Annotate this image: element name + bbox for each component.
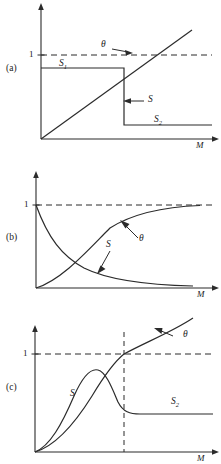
s2-label-c-sub: 2 (176, 401, 179, 408)
x-axis-label-c: M (197, 453, 205, 463)
y-tick-label-one-c: 1 (23, 348, 28, 358)
s2-label-a-sub: 2 (159, 119, 162, 126)
panel-c-plot (0, 304, 221, 464)
s1-label-a-sub: 1 (64, 63, 67, 70)
s-label-c: S (70, 388, 75, 398)
theta-label-a: θ (101, 39, 106, 49)
panel-c: (c) 1 M θ S S2 (0, 304, 221, 464)
s1-label-a: S1 (59, 58, 67, 70)
three-panel-figure: (a) 1 M θ S S1 S2 (0, 0, 221, 464)
theta-annotation-arrowhead (154, 328, 163, 334)
s2-label-a: S2 (154, 114, 162, 126)
panel-b: (b) 1 M θ S (0, 152, 221, 304)
theta-annotation-arrowhead (120, 220, 130, 229)
panel-a-plot (0, 0, 221, 152)
theta-curve (36, 206, 200, 289)
x-axis-arrow (212, 136, 219, 142)
x-axis-label-b: M (197, 289, 205, 299)
y-tick-label-one-a: 1 (29, 49, 34, 59)
theta-label-b: θ (139, 233, 144, 243)
panel-a: (a) 1 M θ S S1 S2 (0, 0, 221, 152)
s-annotation-arrowhead (97, 266, 106, 275)
y-axis-arrow (32, 325, 38, 332)
x-axis-arrow (212, 449, 219, 455)
panel-b-plot (0, 152, 221, 304)
y-axis-arrow (33, 171, 39, 178)
panel-tag-b: (b) (6, 232, 17, 242)
theta-line (41, 30, 192, 139)
panel-tag-c: (c) (6, 382, 17, 392)
s-label-b: S (106, 239, 111, 249)
theta-label-c: θ (183, 329, 188, 339)
theta-curve (35, 318, 193, 452)
y-tick-label-one-b: 1 (24, 199, 29, 209)
x-axis-arrow (212, 285, 219, 291)
s-label-a: S (148, 94, 153, 104)
s-curve (35, 370, 213, 452)
s-curve (36, 205, 193, 286)
panel-tag-a: (a) (6, 63, 17, 73)
s2-label-c: S2 (171, 396, 179, 408)
x-axis-label-a: M (196, 140, 204, 150)
y-axis-arrow (38, 3, 44, 10)
